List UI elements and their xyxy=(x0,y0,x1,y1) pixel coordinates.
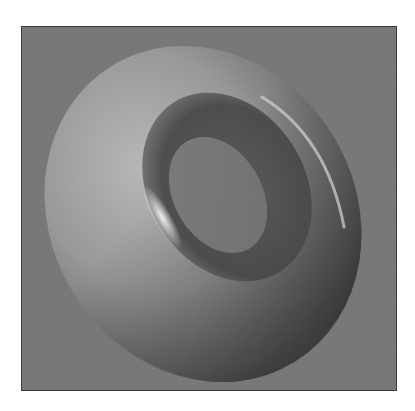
torus-illustration xyxy=(22,27,397,391)
torus-render-frame xyxy=(21,26,397,391)
